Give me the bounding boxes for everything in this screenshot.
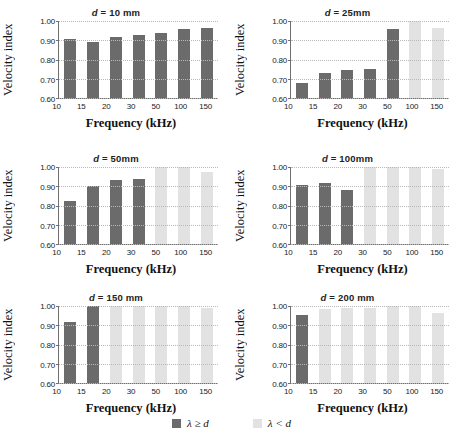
x-tick-label: 150 [193,248,218,261]
y-tick-mark [288,206,291,207]
y-tick-mark [288,79,291,80]
bar [201,28,213,98]
x-tick-label: 100 [168,248,193,261]
gridline [291,79,449,80]
gridline [291,98,449,99]
x-tick-label: 15 [301,102,326,115]
y-tick-mark [56,98,59,99]
x-tick-label: 150 [424,102,449,115]
y-axis-ticks: 1.000.900.800.700.60 [263,167,290,245]
plot-row: Velocity index 1.000.900.800.700.60 [232,167,463,245]
y-tick-label: 0.70 [272,360,287,369]
bar [64,201,76,244]
y-tick-label: 0.70 [40,75,55,84]
plot-area [58,306,218,384]
x-tick-label: 50 [375,387,400,400]
panel-d-150mm: d = 150 mm Velocity index 1.000.900.800.… [0,285,232,410]
bar [319,309,331,383]
bar [319,183,331,244]
panel-d-25mm: d = 25mm Velocity index 1.000.900.800.70… [232,0,463,146]
figure-velocity-index-panels: d = 10 mm Velocity index 1.000.900.800.7… [0,0,463,438]
bar [87,186,99,244]
x-tick-label: 30 [119,248,144,261]
plot-row: Velocity index 1.000.900.800.700.60 [232,306,463,384]
x-tick-label: 50 [375,102,400,115]
y-tick-mark [56,79,59,80]
x-tick-label: 50 [143,102,168,115]
y-tick-mark [56,244,59,245]
plot-row: Velocity index 1.000.900.800.700.60 [232,21,463,99]
panel-title-rest: = 100mm [328,153,373,164]
x-tick-label: 100 [400,102,425,115]
y-tick-mark [288,167,291,168]
bar [432,313,444,383]
y-axis-ticks: 1.000.900.800.700.60 [263,306,290,384]
plot-area [290,306,449,384]
y-tick-mark [288,98,291,99]
gridline [291,186,449,187]
y-tick-label: 0.80 [40,56,55,65]
x-tick-label: 15 [301,248,326,261]
x-tick-label: 15 [301,387,326,400]
y-tick-mark [56,325,59,326]
bar [364,69,376,98]
y-tick-label: 1.00 [40,17,55,26]
x-tick-label: 50 [375,248,400,261]
figure-legend: λ ≥ d λ < d [0,417,463,429]
panel-title-rest: = 25mm [331,7,371,18]
y-axis-ticks: 1.000.900.800.700.60 [263,21,290,99]
bar [64,322,76,383]
gridline [59,345,218,346]
y-tick-label: 0.70 [272,75,287,84]
y-tick-label: 0.70 [40,221,55,230]
y-tick-label: 0.80 [40,341,55,350]
y-tick-mark [56,225,59,226]
y-axis-ticks: 1.000.900.800.700.60 [31,306,58,384]
y-axis-label: Velocity index [0,167,31,245]
x-tick-label: 15 [69,248,94,261]
y-tick-label: 0.60 [40,95,55,104]
y-tick-label: 0.90 [40,321,55,330]
y-tick-label: 0.90 [272,182,287,191]
bar [296,83,308,98]
gridline [291,206,449,207]
x-tick-label: 10 [44,387,69,400]
gridline [59,206,218,207]
x-tick-label: 100 [168,387,193,400]
x-axis-ticks: 1015203050100150 [44,384,218,400]
legend-swatch-dark-icon [172,419,181,428]
panel-title: d = 100mm [232,152,463,165]
x-tick-label: 50 [143,248,168,261]
x-tick-label: 20 [94,248,119,261]
y-tick-mark [288,40,291,41]
x-tick-label: 20 [325,248,350,261]
y-tick-label: 0.90 [40,182,55,191]
plot-row: Velocity index 1.000.900.800.700.60 [0,167,232,245]
bar [387,29,399,98]
bar [155,33,167,98]
x-tick-label: 15 [69,387,94,400]
gridline [59,40,218,41]
gridline [291,364,449,365]
x-axis-ticks: 1015203050100150 [276,245,449,261]
x-axis-label: Frequency (kHz) [272,116,453,131]
x-axis-label: Frequency (kHz) [272,262,453,277]
y-axis-label: Velocity index [232,167,263,245]
y-tick-mark [56,167,59,168]
bar [133,179,145,244]
x-tick-label: 30 [350,248,375,261]
gridline [291,383,449,384]
y-tick-mark [288,306,291,307]
x-tick-label: 30 [119,102,144,115]
bar [319,73,331,98]
gridline [59,306,218,307]
gridline [59,325,218,326]
y-tick-label: 1.00 [272,17,287,26]
plot-row: Velocity index 1.000.900.800.700.60 [0,306,232,384]
y-tick-label: 1.00 [272,163,287,172]
y-axis-label: Velocity index [0,306,31,384]
y-tick-mark [288,225,291,226]
x-tick-label: 150 [193,102,218,115]
gridline [59,244,218,245]
bar [110,180,122,244]
